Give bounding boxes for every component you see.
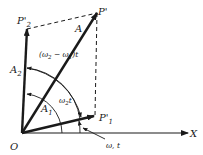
vector-a2 (22, 29, 27, 133)
label-x-axis: X (189, 128, 198, 139)
vector-a1 (22, 116, 94, 133)
label-p2: P'2 (16, 15, 31, 29)
label-vector-a1: A1 (40, 103, 53, 117)
label-angle-w1t: ω, t (106, 141, 121, 150)
dashed-p2-to-p (27, 13, 97, 29)
vector-a (22, 13, 97, 133)
label-p: P' (97, 6, 107, 17)
arc-w1t (79, 121, 80, 133)
phasor-diagram: P'2 P' P'1 O X A A2 A1 (ω2 − ω1)t ω2t ω,… (0, 0, 203, 155)
label-angle-w2t: ω2t (59, 96, 73, 106)
label-vector-a: A (74, 23, 82, 34)
dashed-p1-to-p (95, 13, 97, 115)
label-p1: P'1 (98, 112, 113, 126)
label-origin: O (10, 141, 18, 152)
label-vector-a2: A2 (9, 64, 22, 78)
label-angle-difference: (ω2 − ω1)t (39, 50, 79, 60)
